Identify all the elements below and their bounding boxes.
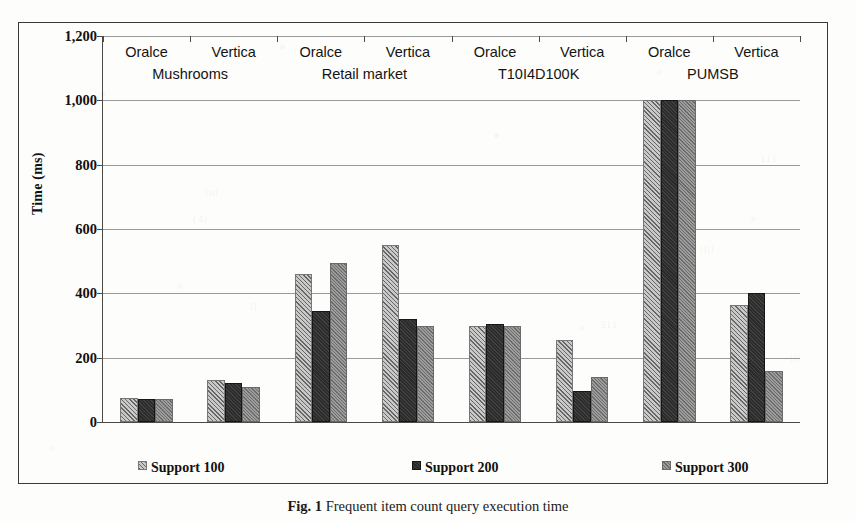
bar: [138, 399, 156, 422]
legend-item: Support 200: [412, 460, 499, 476]
chart-figure: Time (ms) 02004006008001,0001,200 Oralce…: [18, 22, 828, 484]
x-axis-subcategory-label: Oralce: [299, 44, 342, 60]
light-hatch-swatch: [138, 461, 147, 470]
x-axis-tick-mark: [190, 36, 191, 42]
legend-item: Support 100: [138, 460, 225, 476]
bar: [678, 100, 696, 422]
bar: [417, 326, 435, 423]
bar: [120, 398, 138, 422]
x-axis-tick-mark: [277, 36, 278, 42]
legend-label: Support 200: [425, 460, 499, 476]
legend-item: Support 300: [662, 460, 749, 476]
legend-label: Support 300: [675, 460, 749, 476]
x-axis-subcategory-label: Oralce: [474, 44, 517, 60]
y-axis-tick-mark: [97, 165, 103, 166]
y-axis-tick-label: 1,000: [64, 92, 97, 109]
bar: [330, 263, 348, 422]
y-axis-tick-mark: [97, 422, 103, 423]
x-axis-tick-mark: [539, 36, 540, 42]
x-axis-tick-mark: [626, 36, 627, 42]
bar: [469, 326, 487, 422]
y-axis-tick-label: 600: [75, 221, 97, 238]
x-axis-subcategory-label: Vertica: [560, 44, 604, 60]
y-axis-tick-label: 200: [75, 349, 97, 366]
bar: [242, 387, 260, 422]
figure-caption: Fig. 1 Frequent item count query executi…: [0, 498, 856, 515]
x-axis-subcategory-label: Vertica: [212, 44, 256, 60]
x-axis-subcategory-label: Oralce: [125, 44, 168, 60]
x-axis-group-label: T10I4D100K: [498, 66, 579, 82]
bar: [748, 293, 766, 422]
y-axis-tick-label: 1,200: [64, 28, 97, 45]
x-axis-subcategory-label: Vertica: [734, 44, 778, 60]
bar: [155, 399, 173, 422]
y-axis-tick-mark: [97, 358, 103, 359]
y-axis-tick-label: 800: [75, 156, 97, 173]
bar: [556, 340, 574, 422]
y-axis-tick-mark: [97, 229, 103, 230]
plot-area: 02004006008001,0001,200 OralceVerticaOra…: [102, 36, 800, 423]
bar: [486, 324, 504, 422]
bar: [573, 391, 591, 422]
bar: [765, 371, 783, 422]
bar: [295, 274, 313, 422]
bar: [661, 100, 679, 422]
bar: [207, 380, 225, 422]
x-axis-group-label: PUMSB: [687, 66, 739, 82]
x-axis-group-label: Mushrooms: [152, 66, 228, 82]
bar: [312, 311, 330, 422]
bar: [730, 305, 748, 422]
x-axis-subcategory-label: Vertica: [386, 44, 430, 60]
bar: [504, 326, 522, 422]
caption-label: Fig. 1: [287, 498, 322, 514]
bar: [591, 377, 609, 422]
x-axis-tick-mark: [713, 36, 714, 42]
y-axis-tick-mark: [97, 293, 103, 294]
x-axis-subcategory-label: Oralce: [648, 44, 691, 60]
y-axis-tick-label: 0: [90, 414, 97, 431]
bar: [382, 245, 400, 422]
chart-legend: Support 100Support 200Support 300: [102, 460, 799, 482]
gray-hatch-swatch: [662, 461, 671, 470]
bar: [399, 319, 417, 422]
y-axis-title: Time (ms): [30, 152, 46, 215]
bar: [225, 383, 243, 422]
bar: [643, 100, 661, 422]
x-axis-group-label: Retail market: [322, 66, 407, 82]
x-axis-tick-mark: [800, 36, 801, 42]
x-axis-tick-mark: [452, 36, 453, 42]
legend-label: Support 100: [151, 460, 225, 476]
x-axis-tick-mark: [364, 36, 365, 42]
y-axis-tick-mark: [97, 100, 103, 101]
caption-text: Frequent item count query execution time: [326, 498, 569, 514]
x-axis-tick-mark: [103, 36, 104, 42]
dark-solid-swatch: [412, 461, 421, 470]
y-axis-tick-label: 400: [75, 285, 97, 302]
